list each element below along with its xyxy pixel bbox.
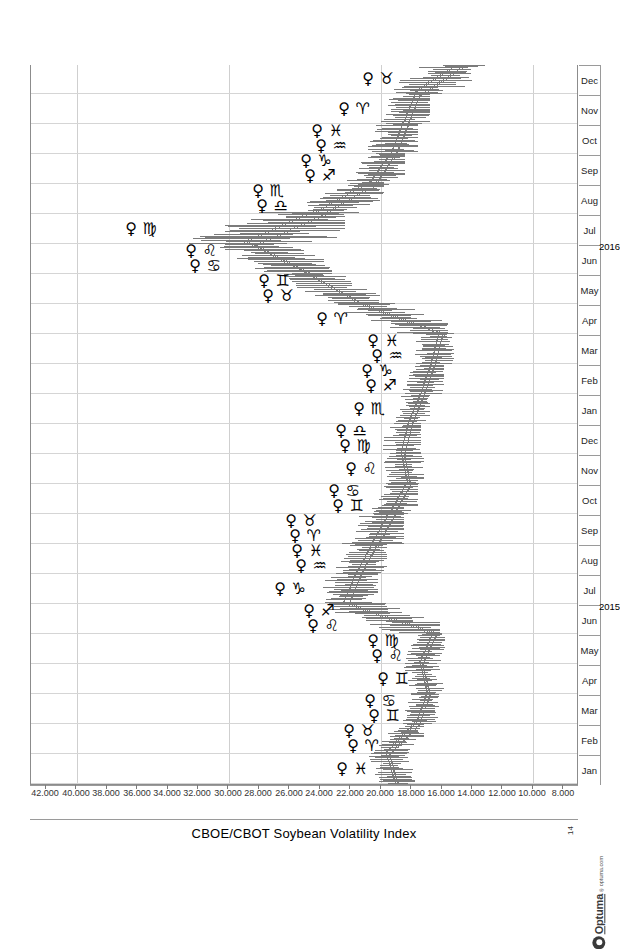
ohlc-bar xyxy=(405,663,431,664)
date-axis-month-cell[interactable]: Sep xyxy=(579,155,601,185)
ohlc-open-tick xyxy=(286,260,287,262)
ohlc-bar xyxy=(313,283,352,284)
gridline-vertical-month xyxy=(31,363,577,364)
ohlc-bar xyxy=(431,75,460,76)
ohlc-bar xyxy=(380,138,408,139)
ohlc-bar xyxy=(421,339,448,340)
ohlc-bar xyxy=(390,489,418,490)
ohlc-bar xyxy=(417,382,434,383)
gridline-vertical-month xyxy=(31,423,577,424)
date-axis-month-cell[interactable]: Feb xyxy=(579,725,601,755)
ohlc-bar xyxy=(251,252,288,253)
date-axis-month-cell[interactable]: May xyxy=(579,635,601,665)
date-axis-month-cell[interactable]: Oct xyxy=(579,125,601,155)
ohlc-open-tick xyxy=(429,691,430,693)
ohlc-bar xyxy=(398,420,426,421)
date-axis-month-cell[interactable]: Mar xyxy=(579,695,601,725)
ohlc-bar xyxy=(410,330,448,331)
date-axis-month-cell[interactable]: Nov xyxy=(579,455,601,485)
ohlc-open-tick xyxy=(374,550,375,552)
date-axis-month-cell[interactable]: Apr xyxy=(579,305,601,335)
ohlc-bar xyxy=(406,658,433,659)
ohlc-open-tick xyxy=(466,65,467,66)
ohlc-bar xyxy=(396,417,420,418)
value-axis-tickmark xyxy=(106,785,107,789)
ohlc-bar xyxy=(382,317,411,318)
ohlc-open-tick xyxy=(280,258,281,260)
ohlc-bar xyxy=(352,188,377,189)
ohlc-open-tick xyxy=(263,248,264,250)
ohlc-open-tick xyxy=(345,294,346,296)
ohlc-bar xyxy=(340,595,369,596)
ohlc-bar xyxy=(413,374,443,375)
value-axis-tick-label: 32.000 xyxy=(184,788,212,798)
ohlc-bar xyxy=(348,185,384,186)
date-axis-month-cell[interactable]: Aug xyxy=(579,185,601,215)
date-axis-month-cell[interactable]: Jan xyxy=(579,755,601,785)
date-axis-month-cell[interactable]: Jul xyxy=(579,215,601,245)
gridline-vertical-month xyxy=(31,693,577,694)
ohlc-open-tick xyxy=(437,354,438,356)
ohlc-open-tick xyxy=(408,441,409,443)
ohlc-open-tick xyxy=(270,238,271,240)
date-axis-month-cell[interactable]: Jun xyxy=(579,245,601,275)
ohlc-bar xyxy=(230,230,340,231)
date-axis-month-cell[interactable]: Jul xyxy=(579,575,601,605)
ohlc-open-tick xyxy=(254,244,255,246)
ohlc-bar xyxy=(383,449,419,450)
ohlc-open-tick xyxy=(440,345,441,347)
ohlc-bar xyxy=(323,587,374,588)
optuma-logo[interactable]: Optuma ® optuma.com xyxy=(592,856,605,949)
gridline-vertical-month xyxy=(31,303,577,304)
date-axis-month-cell[interactable]: Oct xyxy=(579,485,601,515)
ohlc-bar xyxy=(369,167,394,168)
ohlc-bar xyxy=(346,312,405,313)
value-axis-tickmark xyxy=(45,785,46,789)
ohlc-bar xyxy=(417,642,442,643)
date-axis-month-cell[interactable]: Jun xyxy=(579,605,601,635)
date-axis-month-cell[interactable]: Apr xyxy=(579,665,601,695)
ohlc-bar xyxy=(228,226,316,227)
ohlc-bar xyxy=(369,170,406,171)
date-axis-month-cell[interactable]: Jan xyxy=(579,395,601,425)
gridline-vertical-month xyxy=(31,393,577,394)
value-axis[interactable]: 42.00040.00038.00036.00034.00032.00030.0… xyxy=(30,785,578,819)
ohlc-open-tick xyxy=(398,621,399,623)
ohlc-bar xyxy=(393,124,418,125)
date-axis-month-cell[interactable]: Sep xyxy=(579,515,601,545)
date-axis-month-cell[interactable]: Feb xyxy=(579,365,601,395)
ohlc-bar xyxy=(268,222,345,223)
ohlc-bar xyxy=(416,669,440,670)
ohlc-open-tick xyxy=(297,266,298,268)
date-axis-month-cell[interactable]: Aug xyxy=(579,545,601,575)
ohlc-open-tick xyxy=(397,508,398,510)
ohlc-bar xyxy=(411,645,444,646)
ohlc-open-tick xyxy=(391,315,392,317)
date-axis-month-label: Nov xyxy=(581,105,598,116)
ohlc-bar xyxy=(398,100,430,101)
date-axis-month-cell[interactable]: Dec xyxy=(579,425,601,455)
date-axis-month-cell[interactable]: Dec xyxy=(579,65,601,95)
ohlc-bar xyxy=(355,614,391,615)
ohlc-open-tick xyxy=(388,526,389,528)
plot-area[interactable]: ♀ ♓♀ ♈♀ ♉♀ ♊♀ ♋♀ ♊♀ ♌♀ ♍♀ ♌♀ ♐♀ ♑♀ ♒♀ ♓♀… xyxy=(30,65,578,785)
venus-ingress-marker-taurus: ♀ ♉ xyxy=(262,289,294,305)
ohlc-bar xyxy=(242,255,315,256)
ohlc-open-tick xyxy=(300,268,301,270)
ohlc-bar xyxy=(359,168,398,169)
date-axis-month-cell[interactable]: Nov xyxy=(579,95,601,125)
venus-ingress-marker-gemini: ♀ ♊ xyxy=(258,274,290,290)
ohlc-open-tick xyxy=(438,633,439,635)
date-axis-month-label: Nov xyxy=(581,465,598,476)
trademark-symbol: ® xyxy=(599,888,605,892)
chart-stage: CBOE/CBOT Soybean Volatility Index 42.00… xyxy=(30,15,578,847)
ohlc-open-tick xyxy=(391,762,392,764)
date-axis-month-cell[interactable]: Mar xyxy=(579,335,601,365)
ohlc-open-tick xyxy=(379,541,380,543)
ohlc-bar xyxy=(348,556,387,557)
ohlc-bar xyxy=(349,611,389,612)
ohlc-open-tick xyxy=(450,74,451,76)
ohlc-bar xyxy=(411,395,430,396)
ohlc-bar xyxy=(385,143,407,144)
date-axis-month-cell[interactable]: May xyxy=(579,275,601,305)
